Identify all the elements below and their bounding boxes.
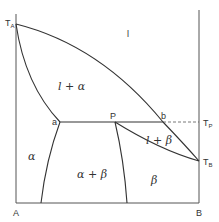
- region-alpha: α: [28, 150, 36, 163]
- region-liquid-beta: l + β: [146, 134, 172, 147]
- label-ta: TA: [5, 18, 15, 29]
- label-tb: TB: [203, 157, 213, 168]
- point-b: b: [161, 111, 166, 121]
- region-beta: β: [150, 174, 157, 187]
- label-tp: TP: [203, 118, 213, 129]
- solvus-alpha: [41, 122, 60, 203]
- region-liquid: l: [127, 29, 129, 39]
- region-liquid-alpha: l + α: [58, 80, 86, 93]
- region-alpha-beta: α + β: [77, 168, 107, 181]
- point-a: a: [52, 117, 57, 127]
- phase-diagram: TA TP TB a P b A B l l + α α α + β l + β…: [0, 0, 219, 222]
- label-a-component: A: [13, 208, 19, 218]
- solvus-beta: [115, 122, 127, 203]
- label-b-component: B: [196, 208, 202, 218]
- liquidus-curve-alpha: [16, 24, 163, 122]
- point-p: P: [110, 111, 116, 121]
- solidus-curve-alpha: [16, 24, 60, 122]
